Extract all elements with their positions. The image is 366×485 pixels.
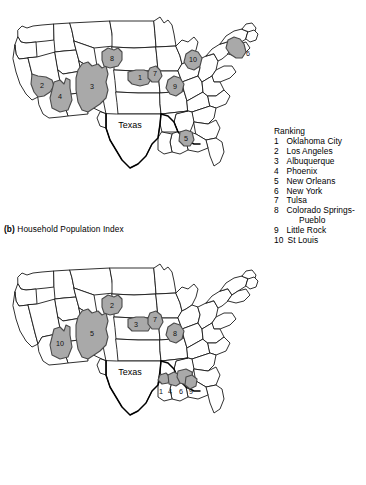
legend-name-5-a: New Orleans xyxy=(287,176,336,186)
legend-name-7-a: Tulsa xyxy=(287,195,307,205)
map-panel-a: 2 4 3 8 1 7 xyxy=(0,0,366,232)
us-map-a-svg: 2 4 3 8 1 7 xyxy=(2,4,270,179)
market-label-2-a: 2 xyxy=(40,81,44,90)
legend-rank-8-a: 8 xyxy=(274,206,279,216)
legend-name-9-a: Little Rock xyxy=(287,225,327,235)
market-label-8-b: 8 xyxy=(173,329,177,338)
legend-name-2-a: Los Angeles xyxy=(287,146,333,156)
legend-name-1-a: Oklahoma City xyxy=(287,136,343,146)
us-map-b: 10 5 2 3 7 8 xyxy=(2,251,270,431)
market-label-1-b: 1 xyxy=(159,387,163,396)
market-label-10-a: 10 xyxy=(189,55,197,64)
market-label-3-a: 3 xyxy=(90,82,94,91)
legend-name-8-a: Colorado Springs- xyxy=(287,205,355,215)
figure-two-us-maps: 2 4 3 8 1 7 xyxy=(0,0,366,485)
ranking-legend-a: Ranking 1 Oklahoma City 2 Los Angeles 3 … xyxy=(274,127,355,246)
legend-name-3-a: Albuquerque xyxy=(287,156,335,166)
market-label-9-b: 9 xyxy=(189,387,193,396)
market-label-9-a: 9 xyxy=(173,82,177,91)
market-label-10-b: 10 xyxy=(56,339,64,348)
panel-b-caption-text: Household Population Index xyxy=(17,224,123,234)
legend-entry-8-a: 8 Colorado Springs- Pueblo xyxy=(274,206,355,226)
panel-b-caption: (b) Household Population Index xyxy=(4,224,124,234)
market-label-2-b: 2 xyxy=(110,301,114,310)
market-label-5-b: 5 xyxy=(90,329,94,338)
state-outlines-b xyxy=(13,264,258,415)
market-label-8-a: 8 xyxy=(110,54,114,63)
market-label-7-a: 7 xyxy=(153,69,157,78)
panel-b-caption-prefix: (b) xyxy=(4,224,15,234)
us-map-b-svg: 10 5 2 3 7 8 xyxy=(2,251,270,431)
legend-name-4-a: Phoenix xyxy=(287,166,318,176)
us-map-a: 2 4 3 8 1 7 xyxy=(2,4,270,179)
texas-label-b: Texas xyxy=(118,367,142,377)
map-panel-b: 10 5 2 3 7 8 xyxy=(0,237,366,485)
market-label-4-a: 4 xyxy=(58,92,62,101)
market-label-4-b: 4 xyxy=(168,387,172,396)
market-label-6-a: 6 xyxy=(246,49,250,58)
market-label-1-a: 1 xyxy=(138,73,142,82)
legend-name-6-a: New York xyxy=(287,186,323,196)
market-label-7-b: 7 xyxy=(153,315,157,324)
market-label-5-a: 5 xyxy=(184,134,188,143)
texas-label-a: Texas xyxy=(118,120,142,130)
market-label-3-b: 3 xyxy=(134,320,138,329)
market-label-6-b: 6 xyxy=(179,387,183,396)
